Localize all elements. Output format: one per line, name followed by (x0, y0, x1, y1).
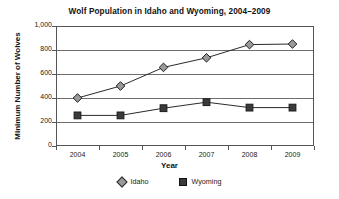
gridline (57, 122, 313, 123)
x-tick-label: 2006 (144, 151, 184, 158)
square-marker-icon (179, 178, 187, 186)
legend-item-wyoming: Wyoming (179, 177, 222, 186)
legend-label-wyoming: Wyoming (192, 177, 222, 186)
y-tick-label: 800 (14, 45, 52, 52)
plot-area (56, 26, 314, 146)
y-tick-label: 200 (14, 117, 52, 124)
x-tick-mark (271, 146, 272, 150)
y-axis-title: Minimum Number of Wolves (10, 24, 24, 148)
wolf-population-line-chart: Wolf Population in Idaho and Wyoming, 20… (0, 0, 339, 199)
x-tick-mark (314, 146, 315, 150)
x-tick-mark (56, 146, 57, 150)
y-tick-label: 400 (14, 93, 52, 100)
legend-label-idaho: Idaho (131, 177, 149, 186)
x-tick-label: 2009 (273, 151, 313, 158)
x-tick-label: 2005 (101, 151, 141, 158)
y-tick-label: 0 (14, 141, 52, 148)
x-tick-label: 2007 (187, 151, 227, 158)
diamond-marker-icon (116, 176, 127, 187)
x-tick-mark (99, 146, 100, 150)
gridline (57, 50, 313, 51)
chart-legend: Idaho Wyoming (0, 177, 339, 186)
x-tick-mark (185, 146, 186, 150)
gridline (57, 98, 313, 99)
y-tick-label: 1,000 (14, 21, 52, 28)
x-tick-label: 2008 (230, 151, 270, 158)
x-tick-label: 2004 (58, 151, 98, 158)
x-tick-mark (228, 146, 229, 150)
legend-item-idaho: Idaho (118, 177, 149, 186)
y-tick-label: 600 (14, 69, 52, 76)
chart-title: Wolf Population in Idaho and Wyoming, 20… (0, 7, 339, 16)
x-tick-mark (142, 146, 143, 150)
x-axis-title: Year (0, 161, 339, 170)
gridline (57, 74, 313, 75)
